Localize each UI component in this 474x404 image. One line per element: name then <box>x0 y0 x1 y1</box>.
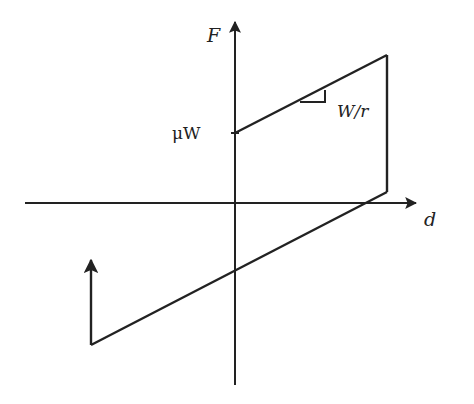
intercept-label: μW <box>172 123 201 143</box>
slope-triangle <box>300 90 325 102</box>
hysteresis-diagram: F d μW W/r <box>0 0 474 404</box>
d-axis-label: d <box>424 208 436 230</box>
f-axis-label: F <box>206 24 221 46</box>
slope-label: W/r <box>337 101 369 121</box>
upper-slope-line <box>235 55 387 133</box>
lower-slope-line <box>91 192 387 345</box>
